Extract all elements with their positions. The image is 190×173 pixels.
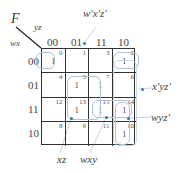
col-header-00: 00 [47,36,58,48]
row-var-label: wx [10,38,20,48]
minterm-number: 4 [59,73,63,81]
group-label-wxy: wxy [80,153,97,165]
group-label-xpyzp: x'yz' [152,80,171,92]
arrow-wxy [105,116,108,119]
arrow-wpxpzp [83,42,86,45]
arrow-xz [70,117,73,120]
minterm-number: 12 [56,98,63,106]
loop-m0 [36,52,55,69]
cell-m1: 1 [66,49,90,73]
cell-m9: 9 [66,122,90,146]
minterm-number: 0 [59,49,63,57]
col-header-10: 10 [118,36,129,48]
cell-m3: 3 [89,49,113,73]
row-header-10: 10 [28,127,39,139]
row-header-11: 11 [28,103,39,115]
group-label-wpxpzp: w'x'z' [83,7,107,19]
loop-xpyzp [113,60,137,146]
cell-m11: 11 [89,122,113,146]
arrow-xpyzp [141,88,144,91]
cell-m8: 8 [42,122,66,146]
minterm-number: 8 [59,122,63,130]
col-header-11: 11 [96,36,107,48]
cell-m4: 4 [42,73,66,97]
col-var-label: yz [34,22,42,32]
group-label-xz: xz [57,153,66,165]
cell-m12: 12 [42,98,66,122]
minterm-number: 7 [106,73,110,81]
col-header-01: 01 [71,36,82,48]
minterm-number: 9 [83,122,87,130]
minterm-number: 1 [83,49,87,57]
row-header-01: 01 [28,79,39,91]
arrow-wyzp [127,117,130,120]
minterm-number: 3 [106,49,110,57]
group-label-wyzp: wyz' [151,111,170,123]
minterm-number: 11 [103,122,110,130]
